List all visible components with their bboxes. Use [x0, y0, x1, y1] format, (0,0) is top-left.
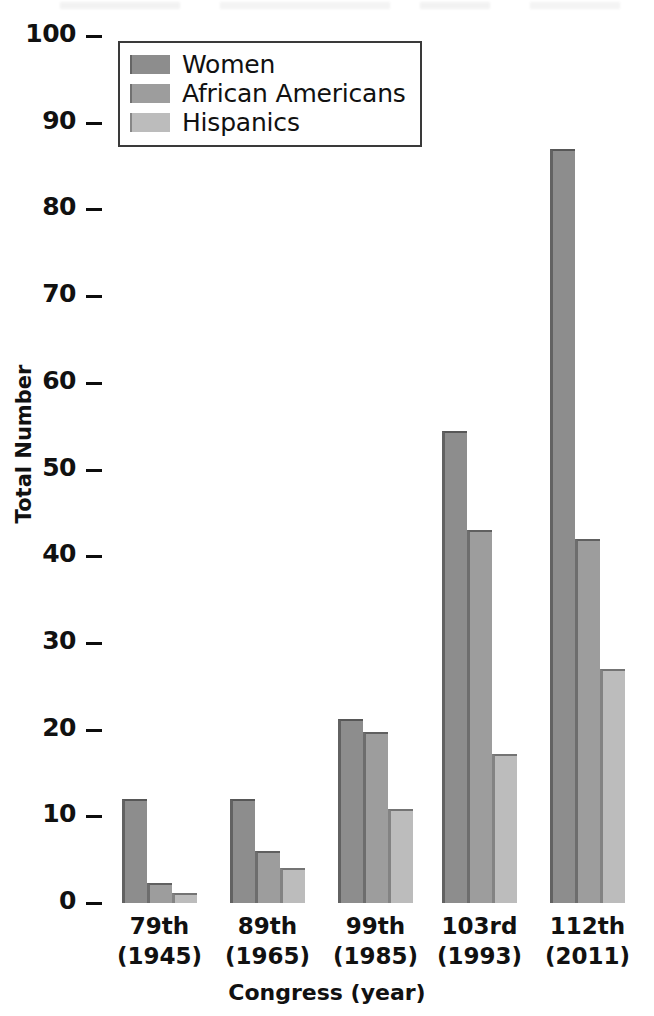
y-axis-tick [86, 642, 102, 645]
y-axis-tick-label: 70 [14, 279, 76, 308]
y-axis-tick [86, 208, 102, 211]
bar [600, 669, 625, 903]
bar-group [122, 36, 197, 903]
x-axis-label-congress: 79th [100, 912, 220, 942]
y-axis-tick-label: 20 [14, 713, 76, 742]
y-axis-title: Total Number [12, 354, 36, 534]
y-axis-tick-label: 90 [14, 106, 76, 135]
y-axis-tick-label: 100 [14, 19, 76, 48]
x-axis-label-year: (1945) [100, 942, 220, 972]
bar [442, 431, 467, 904]
scan-artifact [60, 2, 620, 9]
y-axis-tick [86, 295, 102, 298]
y-axis-tick [86, 382, 102, 385]
y-axis-line [0, 0, 4, 869]
x-axis-title: Congress (year) [0, 980, 654, 1005]
x-axis-label: 99th(1985) [316, 912, 436, 972]
bar [575, 539, 600, 903]
y-axis-tick-label: 30 [14, 626, 76, 655]
x-axis-label: 89th(1965) [208, 912, 328, 972]
x-axis-label-congress: 89th [208, 912, 328, 942]
y-axis-tick-label: 10 [14, 799, 76, 828]
x-axis-label-congress: 99th [316, 912, 436, 942]
bar [467, 530, 492, 903]
x-axis-label-year: (2011) [528, 942, 648, 972]
bar [280, 868, 305, 903]
bar [363, 732, 388, 903]
bar [338, 719, 363, 903]
plot-area [105, 36, 647, 903]
bar [388, 809, 413, 904]
bar-chart: 0102030405060708090100 Total Number 79th… [0, 0, 654, 1016]
y-axis-tick-label: 80 [14, 192, 76, 221]
legend-swatch [130, 113, 170, 132]
y-axis-tick-label: 40 [14, 539, 76, 568]
y-axis-tick [86, 729, 102, 732]
legend-swatch [130, 55, 170, 74]
y-axis-tick [86, 35, 102, 38]
x-axis-label-year: (1985) [316, 942, 436, 972]
bar-group [550, 36, 625, 903]
x-axis-label-congress: 103rd [420, 912, 540, 942]
bar [230, 799, 255, 903]
bar-group [442, 36, 517, 903]
x-axis-label-year: (1965) [208, 942, 328, 972]
bar [172, 893, 197, 903]
legend-label: Hispanics [182, 108, 300, 137]
bar [550, 149, 575, 903]
bar [147, 883, 172, 903]
legend-item: African Americans [130, 79, 406, 108]
y-axis-tick-label: 0 [14, 886, 76, 915]
x-axis-label-year: (1993) [420, 942, 540, 972]
bar-group [230, 36, 305, 903]
legend-item: Women [130, 50, 406, 79]
x-axis-label: 112th(2011) [528, 912, 648, 972]
legend-label: Women [182, 50, 275, 79]
legend-label: African Americans [182, 79, 406, 108]
y-axis-tick [86, 815, 102, 818]
y-axis-tick [86, 555, 102, 558]
y-axis-tick [86, 902, 102, 905]
bar [122, 799, 147, 903]
legend-item: Hispanics [130, 108, 406, 137]
y-axis-tick [86, 469, 102, 472]
bar [492, 754, 517, 903]
bar-group [338, 36, 413, 903]
x-axis-label: 103rd(1993) [420, 912, 540, 972]
x-axis-label: 79th(1945) [100, 912, 220, 972]
legend-swatch [130, 84, 170, 103]
y-axis-tick [86, 122, 102, 125]
x-axis-label-congress: 112th [528, 912, 648, 942]
bar [255, 851, 280, 903]
chart-legend: WomenAfrican AmericansHispanics [118, 41, 422, 147]
